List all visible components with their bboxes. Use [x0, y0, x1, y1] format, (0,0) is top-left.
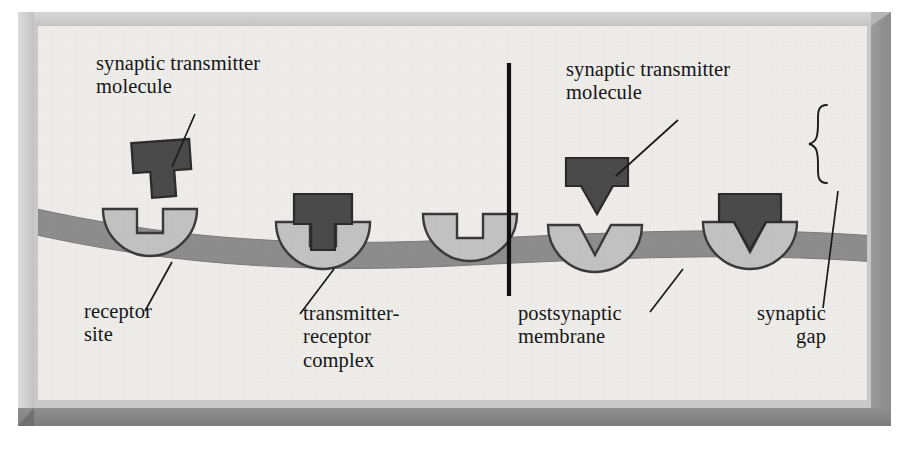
frame-bevel-left [18, 12, 34, 426]
leader-line-postsynaptic-membrane [650, 269, 683, 312]
frame-corner-top-right [871, 12, 891, 26]
diagram-surface: synaptic transmitter molecule receptor s… [38, 26, 867, 400]
label-transmitter-molecule-left: synaptic transmitter molecule [96, 52, 260, 99]
label-transmitter-receptor-complex: transmitter- receptor complex [303, 302, 399, 372]
label-postsynaptic-membrane: postsynaptic membrane [518, 302, 622, 349]
label-receptor-site: receptor site [84, 300, 152, 347]
frame-bevel-bottom [18, 408, 891, 426]
figure-canvas: synaptic transmitter molecule receptor s… [0, 0, 911, 456]
frame-bevel-top [18, 12, 891, 26]
label-synaptic-gap: synaptic gap [716, 302, 826, 349]
label-transmitter-molecule-right: synaptic transmitter molecule [566, 58, 730, 105]
left-panel-artwork [103, 114, 517, 314]
right-panel-artwork [548, 105, 838, 312]
frame-bevel-right [871, 12, 891, 426]
transmitter-molecule-free-right[interactable] [566, 158, 628, 214]
frame-corner-bottom-left [18, 408, 34, 426]
leader-line-transmitter-right [616, 120, 678, 176]
transmitter-molecule-free-left[interactable] [131, 139, 193, 199]
synaptic-gap-brace [809, 105, 827, 183]
